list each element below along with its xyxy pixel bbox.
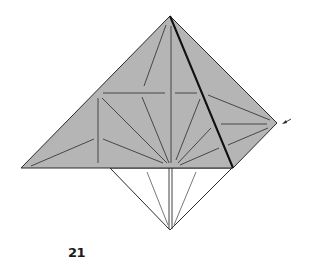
lower-white-flap: [110, 168, 232, 230]
push-arrow-icon: [282, 119, 291, 124]
origami-diagram: [0, 0, 309, 266]
step-number: 21: [68, 245, 85, 260]
